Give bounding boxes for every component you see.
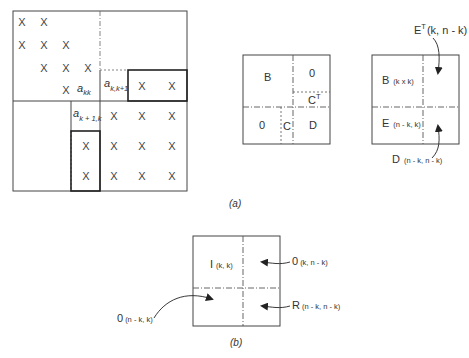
- block-CT: CT: [308, 92, 321, 106]
- label-I: I(k, k): [210, 258, 233, 270]
- block-zero-top: 0: [309, 67, 315, 79]
- nonzero-mark: X: [138, 170, 146, 182]
- partition-border: [372, 55, 459, 144]
- nonzero-mark: X: [40, 62, 48, 74]
- nonzero-mark: X: [168, 110, 176, 122]
- nonzero-mark: X: [62, 62, 70, 74]
- matrix-elimination-diagram: XXXXXXXXXXXXXXXXXXXXXX akk ak,k+1 ak + 1…: [13, 11, 187, 191]
- nonzero-mark: X: [82, 170, 90, 182]
- nonzero-mark: X: [138, 80, 146, 92]
- label-ET: ET(k, n - k): [414, 22, 467, 36]
- block-B: B: [264, 71, 271, 83]
- label-akk: akk: [77, 82, 92, 97]
- label-B: B(k x k): [382, 74, 414, 86]
- nonzero-mark: X: [168, 80, 176, 92]
- row-k-highlight-box: [128, 70, 187, 101]
- label-zero-tr: 0(k, n - k): [292, 255, 328, 267]
- block-C: C: [283, 120, 291, 132]
- caption-b: (b): [230, 337, 242, 348]
- partition-right-diagram: ET(k, n - k) B(k x k) E(n - k, k) D(n - …: [372, 22, 467, 165]
- nonzero-mark: X: [110, 140, 118, 152]
- label-zero-bl: 0(n - k, k): [117, 312, 153, 324]
- nonzero-mark: X: [40, 39, 48, 51]
- block-zero-bottom: 0: [259, 119, 265, 131]
- arrow-D: [432, 126, 439, 158]
- nonzero-mark: X: [40, 16, 48, 28]
- nonzero-mark: X: [18, 39, 26, 51]
- partition-b-diagram: I(k, k) 0(k, n - k) R(n - k, n - k) 0(n …: [117, 236, 341, 326]
- nonzero-mark: X: [62, 84, 70, 96]
- partition-middle-diagram: B 0 CT 0 C D: [243, 55, 330, 144]
- label-R: R(n - k, n - k): [292, 299, 341, 311]
- nonzero-mark: X: [18, 16, 26, 28]
- nonzero-mark: X: [62, 39, 70, 51]
- nonzero-mark: X: [82, 140, 90, 152]
- arrow-zero-bl: [154, 296, 212, 318]
- matrix-nonzero-marks: XXXXXXXXXXXXXXXXXXXXXX: [18, 16, 176, 182]
- partition-border: [193, 236, 280, 326]
- label-E: E(n - k, k): [382, 117, 421, 129]
- caption-a: (a): [229, 198, 241, 209]
- nonzero-mark: X: [110, 110, 118, 122]
- nonzero-mark: X: [138, 140, 146, 152]
- nonzero-mark: X: [168, 170, 176, 182]
- figure-canvas: XXXXXXXXXXXXXXXXXXXXXX akk ak,k+1 ak + 1…: [0, 0, 469, 358]
- nonzero-mark: X: [110, 170, 118, 182]
- nonzero-mark: X: [138, 110, 146, 122]
- arrow-zero-tr: [262, 262, 290, 264]
- block-D: D: [309, 119, 317, 131]
- label-ak1-k: ak + 1,k: [73, 107, 103, 123]
- nonzero-mark: X: [84, 62, 92, 74]
- label-ak-k1: ak,k+1: [104, 77, 128, 93]
- arrow-R: [262, 306, 290, 308]
- nonzero-mark: X: [168, 140, 176, 152]
